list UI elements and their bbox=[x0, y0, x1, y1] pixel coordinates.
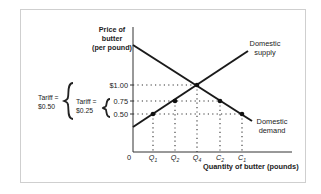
svg-text:supply: supply bbox=[254, 48, 276, 57]
x-axis-label: Quantity of butter (pounds) bbox=[203, 162, 299, 171]
svg-text:butter: butter bbox=[102, 34, 123, 43]
equilibrium-points bbox=[151, 83, 245, 117]
svg-text:Q4: Q4 bbox=[193, 153, 202, 163]
y-axis-label: Price of butter (per pound) bbox=[92, 25, 133, 52]
svg-text:Q2: Q2 bbox=[171, 153, 180, 163]
y-tick-labels: $1.00 0.75 0.50 bbox=[110, 81, 129, 119]
svg-text:(per pound): (per pound) bbox=[92, 43, 133, 52]
svg-text:0.50: 0.50 bbox=[114, 110, 128, 119]
demand-label: Domestic demand bbox=[257, 117, 288, 135]
tariff-050-label: Tariff = $0.50 bbox=[38, 94, 58, 110]
supply-curve bbox=[133, 51, 248, 127]
svg-text:$0.50: $0.50 bbox=[38, 103, 55, 110]
supply-label: Domestic supply bbox=[250, 39, 281, 57]
origin-label: 0 bbox=[127, 153, 131, 162]
tariff-025-brace bbox=[103, 99, 110, 117]
supply-demand-chart: Price of butter (per pound) $1.00 0.75 0… bbox=[0, 0, 321, 194]
tariff-025-label: Tariff = $0.25 bbox=[76, 98, 96, 114]
svg-text:Domestic: Domestic bbox=[257, 117, 288, 126]
svg-text:$1.00: $1.00 bbox=[110, 81, 129, 90]
svg-text:$0.25: $0.25 bbox=[76, 107, 93, 114]
svg-text:Tariff =: Tariff = bbox=[76, 98, 96, 105]
svg-text:demand: demand bbox=[259, 126, 286, 135]
svg-text:0.75: 0.75 bbox=[114, 97, 128, 106]
tariff-050-brace bbox=[64, 83, 73, 119]
demand-curve bbox=[133, 45, 252, 121]
svg-text:Price of: Price of bbox=[99, 25, 126, 34]
svg-text:Q1: Q1 bbox=[149, 153, 158, 163]
svg-text:Tariff =: Tariff = bbox=[38, 94, 58, 101]
svg-text:Domestic: Domestic bbox=[250, 39, 281, 48]
dotted-guides bbox=[133, 85, 242, 152]
